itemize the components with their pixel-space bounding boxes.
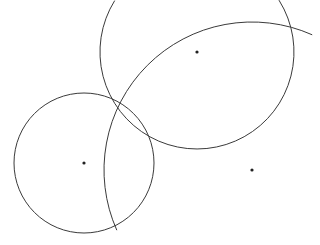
center-large-arc-point (250, 168, 253, 171)
center-small-circle-point (82, 161, 85, 164)
center-lens-arc-point (195, 50, 198, 53)
diagram-canvas (0, 0, 320, 245)
large-arc (104, 22, 312, 230)
